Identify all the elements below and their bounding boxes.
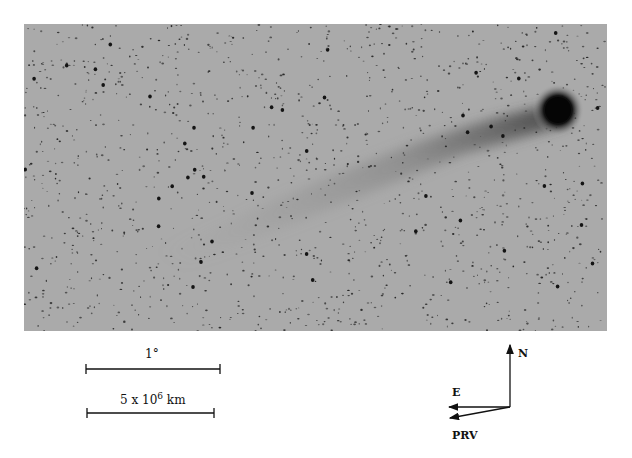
compass-east-label: E [452,386,460,399]
scale-km-label: 5 x 106 km [120,391,186,407]
compass-north-label: N [518,347,528,360]
scale-bar-km [87,408,214,418]
scale-km-base: 5 x 10 [120,393,157,407]
annotation-overlay [0,0,632,458]
compass-prv-label: PRV [452,429,478,442]
scale-bar-degree [86,364,220,374]
scale-degree-label: 1° [145,347,159,361]
prv-arrow [450,407,510,418]
scale-km-unit: km [163,393,185,407]
compass [449,345,510,418]
